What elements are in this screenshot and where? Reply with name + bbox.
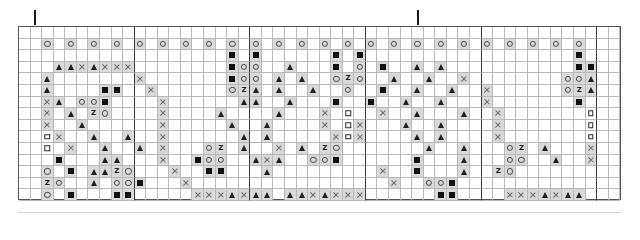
stitch-cell-empty[interactable]	[424, 189, 436, 201]
stitch-cell-empty[interactable]	[239, 166, 251, 178]
stitch-cell-empty[interactable]	[354, 155, 366, 167]
stitch-cell-empty[interactable]	[192, 62, 204, 74]
stitch-cell-empty[interactable]	[401, 27, 413, 39]
stitch-cell-empty[interactable]	[493, 39, 505, 51]
stitch-cell-empty[interactable]	[146, 73, 158, 85]
stitch-cell-empty[interactable]	[482, 166, 494, 178]
stitch-cell-empty[interactable]	[470, 62, 482, 74]
stitch-cell-empty[interactable]	[343, 178, 355, 190]
stitch-cell-filled-square[interactable]	[447, 178, 459, 190]
stitch-cell-empty[interactable]	[377, 131, 389, 143]
stitch-cell-empty[interactable]	[493, 97, 505, 109]
stitch-cell-filled-triangle[interactable]	[100, 166, 112, 178]
stitch-cell-empty[interactable]	[169, 73, 181, 85]
stitch-cell-empty[interactable]	[354, 178, 366, 190]
stitch-cell-empty[interactable]	[366, 73, 378, 85]
stitch-cell-empty[interactable]	[389, 62, 401, 74]
stitch-cell-cross-stitch-x[interactable]	[354, 120, 366, 132]
stitch-cell-empty[interactable]	[458, 178, 470, 190]
stitch-cell-empty[interactable]	[19, 62, 31, 74]
stitch-cell-open-circle[interactable]	[250, 39, 262, 51]
stitch-cell-empty[interactable]	[366, 155, 378, 167]
stitch-cell-empty[interactable]	[377, 50, 389, 62]
stitch-cell-empty[interactable]	[308, 131, 320, 143]
stitch-cell-filled-triangle[interactable]	[285, 97, 297, 109]
stitch-cell-empty[interactable]	[100, 178, 112, 190]
stitch-cell-empty[interactable]	[181, 85, 193, 97]
stitch-cell-empty[interactable]	[551, 120, 563, 132]
stitch-cell-empty[interactable]	[597, 39, 609, 51]
stitch-cell-empty[interactable]	[574, 108, 586, 120]
stitch-cell-empty[interactable]	[123, 155, 135, 167]
stitch-cell-empty[interactable]	[54, 166, 66, 178]
stitch-cell-empty[interactable]	[320, 131, 332, 143]
stitch-cell-empty[interactable]	[181, 50, 193, 62]
stitch-cell-empty[interactable]	[343, 143, 355, 155]
stitch-cell-empty[interactable]	[562, 39, 574, 51]
stitch-cell-cross-stitch-x[interactable]	[216, 189, 228, 201]
stitch-cell-open-circle[interactable]	[505, 155, 517, 167]
stitch-cell-letter-z[interactable]: Z	[343, 73, 355, 85]
stitch-cell-empty[interactable]	[447, 166, 459, 178]
stitch-cell-filled-square[interactable]	[586, 62, 598, 74]
stitch-cell-filled-square[interactable]	[100, 85, 112, 97]
stitch-cell-filled-square[interactable]	[135, 178, 147, 190]
stitch-cell-empty[interactable]	[377, 39, 389, 51]
stitch-cell-empty[interactable]	[216, 85, 228, 97]
stitch-cell-empty[interactable]	[273, 97, 285, 109]
stitch-cell-open-circle[interactable]	[458, 39, 470, 51]
stitch-cell-empty[interactable]	[505, 120, 517, 132]
stitch-cell-empty[interactable]	[482, 178, 494, 190]
stitch-cell-letter-z[interactable]: Z	[516, 143, 528, 155]
stitch-cell-empty[interactable]	[285, 178, 297, 190]
stitch-cell-empty[interactable]	[227, 178, 239, 190]
stitch-cell-empty[interactable]	[412, 143, 424, 155]
stitch-cell-empty[interactable]	[424, 108, 436, 120]
stitch-cell-empty[interactable]	[389, 97, 401, 109]
stitch-cell-filled-triangle[interactable]	[458, 143, 470, 155]
stitch-cell-empty[interactable]	[146, 166, 158, 178]
stitch-cell-empty[interactable]	[551, 27, 563, 39]
stitch-cell-empty[interactable]	[308, 73, 320, 85]
stitch-cell-empty[interactable]	[435, 50, 447, 62]
stitch-cell-open-circle[interactable]	[65, 39, 77, 51]
stitch-cell-empty[interactable]	[158, 27, 170, 39]
stitch-cell-filled-triangle[interactable]	[551, 155, 563, 167]
stitch-cell-empty[interactable]	[192, 85, 204, 97]
stitch-cell-empty[interactable]	[19, 85, 31, 97]
stitch-cell-empty[interactable]	[135, 108, 147, 120]
stitch-cell-empty[interactable]	[146, 108, 158, 120]
stitch-cell-empty[interactable]	[77, 131, 89, 143]
stitch-cell-empty[interactable]	[239, 39, 251, 51]
stitch-cell-empty[interactable]	[192, 131, 204, 143]
stitch-cell-empty[interactable]	[135, 166, 147, 178]
stitch-cell-empty[interactable]	[539, 120, 551, 132]
stitch-cell-empty[interactable]	[470, 131, 482, 143]
stitch-cell-empty[interactable]	[597, 27, 609, 39]
stitch-cell-empty[interactable]	[19, 178, 31, 190]
stitch-cell-empty[interactable]	[505, 73, 517, 85]
stitch-cell-empty[interactable]	[135, 50, 147, 62]
stitch-cell-filled-triangle[interactable]	[539, 143, 551, 155]
stitch-cell-empty[interactable]	[308, 62, 320, 74]
stitch-cell-filled-square[interactable]	[227, 50, 239, 62]
stitch-cell-empty[interactable]	[297, 166, 309, 178]
stitch-cell-empty[interactable]	[239, 27, 251, 39]
stitch-cell-empty[interactable]	[586, 97, 598, 109]
stitch-cell-empty[interactable]	[54, 108, 66, 120]
stitch-cell-filled-triangle[interactable]	[250, 155, 262, 167]
stitch-cell-empty[interactable]	[285, 27, 297, 39]
stitch-cell-empty[interactable]	[135, 120, 147, 132]
stitch-cell-filled-triangle[interactable]	[308, 85, 320, 97]
stitch-cell-cross-stitch-x[interactable]	[123, 62, 135, 74]
stitch-cell-empty[interactable]	[597, 97, 609, 109]
stitch-cell-open-circle[interactable]	[562, 85, 574, 97]
stitch-cell-filled-triangle[interactable]	[42, 85, 54, 97]
stitch-cell-empty[interactable]	[354, 166, 366, 178]
stitch-cell-open-circle[interactable]	[88, 39, 100, 51]
stitch-cell-empty[interactable]	[389, 131, 401, 143]
stitch-cell-empty[interactable]	[505, 131, 517, 143]
stitch-cell-empty[interactable]	[88, 155, 100, 167]
stitch-cell-empty[interactable]	[447, 73, 459, 85]
stitch-cell-empty[interactable]	[135, 155, 147, 167]
